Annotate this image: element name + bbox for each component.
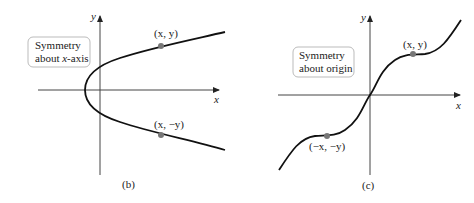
point-upper-b — [158, 43, 164, 49]
point-lower-c — [324, 133, 330, 139]
point-lower-label-b: (x, −y) — [154, 118, 184, 131]
panel-c: x y (x, y) (−x, −y) Symmetry about origi… — [278, 11, 461, 192]
x-axis-label-b: x — [213, 93, 219, 105]
symmetry-diagrams: x y (x, y) (x, −y) Symmetry about x-axis… — [0, 0, 474, 203]
point-upper-label-c: (x, y) — [403, 38, 427, 51]
point-lower-b — [158, 132, 164, 138]
caption-b: (b) — [122, 178, 135, 191]
y-axis-label-c: y — [360, 11, 366, 23]
box-b-line1: Symmetry — [35, 39, 81, 51]
box-b-line2: about x-axis — [35, 52, 88, 64]
y-axis-label-b: y — [90, 10, 96, 22]
caption-c: (c) — [362, 179, 375, 192]
x-axis-label-c: x — [455, 99, 461, 111]
box-c-line1: Symmetry — [299, 49, 345, 61]
parabola-curve — [85, 32, 225, 150]
point-upper-label-b: (x, y) — [154, 27, 178, 40]
point-lower-label-c: (−x, −y) — [309, 140, 346, 153]
panel-b: x y (x, y) (x, −y) Symmetry about x-axis… — [28, 10, 225, 191]
box-c-line2: about origin — [299, 62, 353, 74]
point-upper-c — [410, 51, 416, 57]
